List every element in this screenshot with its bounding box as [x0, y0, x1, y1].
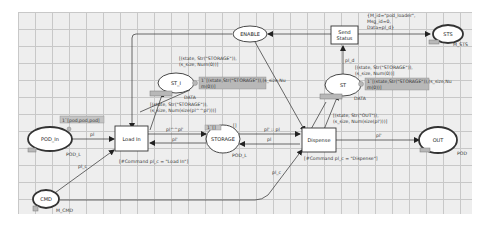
svg-text:1`[]: 1`[] [207, 125, 216, 130]
arc-cmd-to-dispense [60, 150, 302, 200]
inscription-st-i-load-1: [(state, Str("STORAGE")), [179, 56, 237, 61]
dispense-guard: [#Command pl_c = "Dispense"] [304, 156, 378, 162]
inscription-pl-c-2: pl_c [272, 170, 281, 176]
place-st[interactable]: ST 1`[(state,Str("STORAGE")),(s_size,Nu … [320, 74, 452, 101]
place-pod-in[interactable]: POD_In 1`[pod,pod,pod] POD_L [28, 116, 104, 158]
inscription-pl-d: pl_d [345, 58, 354, 64]
inscription-pl-1: pl [90, 132, 94, 137]
place-cmd[interactable]: CMD M_CMD [33, 190, 73, 214]
st-marking-tag [320, 94, 342, 99]
inscription-st-i-load-2: (s_size, Num(0))] [179, 62, 218, 68]
inscription-st-dispense-2: (s_size, Num(0))] [355, 71, 394, 77]
st-i-token-count [193, 81, 198, 86]
svg-text:CMD: CMD [40, 196, 52, 202]
pod-in-colorset: POD_L [66, 152, 81, 158]
out-colorset: POD [457, 151, 467, 156]
pod-in-token-count [67, 127, 71, 131]
inscription-pl-c-1: pl_c [78, 164, 87, 170]
inscription-pl-concat: pl^^pl' [166, 127, 183, 132]
svg-text:Load In: Load In [122, 136, 140, 142]
cmd-colorset: M_CMD [56, 208, 73, 214]
st-colorset: DATA [354, 96, 367, 101]
out-marking-tag [420, 148, 430, 152]
svg-text:ENABLE: ENABLE [240, 31, 260, 37]
svg-text:ST_I: ST_I [171, 80, 181, 87]
svg-text:POD_In: POD_In [41, 136, 59, 143]
storage-colorset: POD_L [232, 153, 247, 159]
svg-text:Send: Send [338, 29, 351, 35]
cmd-marking-tag [33, 206, 38, 211]
transition-dispense[interactable]: Dispense [#Command pl_c = "Dispense"] [302, 128, 378, 162]
svg-text:m(0))]: m(0))] [367, 85, 382, 90]
svg-text:ST: ST [340, 82, 347, 88]
pod-in-marking-tag [28, 148, 36, 152]
sts-marking-tag [429, 40, 439, 44]
arc-cmd-to-load [52, 150, 114, 195]
inscription-msg-3: Data=pl_d} [367, 25, 394, 31]
inscription-st-dispense-1: [(state, Str("STORAGE")), [355, 65, 413, 70]
st-i-marking-tag [150, 91, 172, 96]
petri-net-svg: [(state, Str("STORAGE")), (s_size, Num(0… [0, 0, 489, 230]
sts-colorset: M_STS [453, 42, 468, 48]
svg-text:Status: Status [337, 35, 353, 41]
svg-text:STS: STS [443, 31, 452, 37]
inscription-load-st-i-2: (s_size, Num(size(pl^^pl')))] [150, 108, 216, 114]
svg-text:OUT: OUT [433, 137, 445, 143]
inscription-pl-prime-1: pl' [172, 137, 177, 142]
transition-send-status[interactable]: Send Status [331, 26, 358, 44]
place-out[interactable]: OUT POD [419, 127, 467, 156]
inscription-dispense-st-2: (s_size, Num(size(pl')))] [333, 119, 387, 125]
place-sts[interactable]: STS M_STS [429, 25, 468, 48]
st-i-colorset: DATA [184, 95, 197, 100]
place-st-i[interactable]: ST_I 1`[(state,Str("STORAGE")),(s_size,N… [150, 73, 286, 100]
inscription-load-st-i-1: [(state, Str("STORAGE")), [150, 102, 208, 107]
svg-text:m(0))]: m(0))] [201, 84, 216, 89]
inscription-pl-cons: pl' :: pl [264, 127, 280, 132]
petri-net-canvas: [(state, Str("STORAGE")), (s_size, Num(0… [0, 0, 489, 230]
svg-text:1`[pod,pod,pod]: 1`[pod,pod,pod] [62, 118, 100, 123]
inscription-dispense-st-1: [(state, Str("OUT")), [333, 113, 379, 118]
storage-initial-marking: [] [233, 123, 237, 128]
svg-text:STORAGE: STORAGE [211, 136, 235, 142]
svg-text:Dispense: Dispense [308, 137, 331, 144]
load-in-guard: [#Command pl_c = "Load In"] [119, 159, 188, 165]
arc-st-dispense [310, 102, 326, 131]
st-token-count [359, 82, 364, 87]
inscription-pl-2: pl [267, 137, 271, 142]
inscription-pl-prime-2: pl' [376, 133, 381, 138]
place-storage[interactable]: STORAGE 1`[] [] POD_L [205, 123, 247, 159]
place-enable[interactable]: ENABLE [233, 26, 267, 42]
